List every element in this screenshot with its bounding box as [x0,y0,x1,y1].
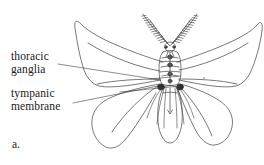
label-thoracic-ganglia: thoracic ganglia [11,50,49,76]
leader-line-tympanic-membrane [73,86,158,103]
hindwing-left-vein [112,86,158,132]
legs [147,88,194,128]
forewing-left-outline [75,21,163,87]
moth-anatomy-illustration [0,0,264,165]
label-tympanic-membrane-line1: tympanic [11,87,55,99]
forewing-left-vein-costal [88,43,160,71]
label-tympanic-membrane: tympanic membrane [11,87,60,113]
eye-left [165,46,168,49]
hindwing-right-vein [180,87,212,136]
forewing-right-outline [177,23,262,87]
thorax-nerve-branch-left [161,57,168,76]
leader-line-thoracic-ganglia-2 [150,76,181,79]
antenna-right-plumose [170,14,198,46]
thorax-nerve-branch-right [172,57,179,76]
label-tympanic-membrane-line2: membrane [11,100,60,113]
hindwing-left-outline [92,84,160,148]
eye-right [173,46,176,49]
figure-caption: a. [12,138,20,150]
leader-line-thoracic-ganglia [58,64,160,80]
figure-page: thoracic ganglia tympanic membrane a. [0,0,264,165]
antenna-left-plumose [142,14,170,46]
thoracic-ganglia-chain [168,53,173,84]
label-thoracic-ganglia-line1: thoracic [11,50,49,62]
label-thoracic-ganglia-line2: ganglia [11,63,49,76]
forewing-right-vein-costal [179,43,248,70]
ink-speck [203,77,204,78]
